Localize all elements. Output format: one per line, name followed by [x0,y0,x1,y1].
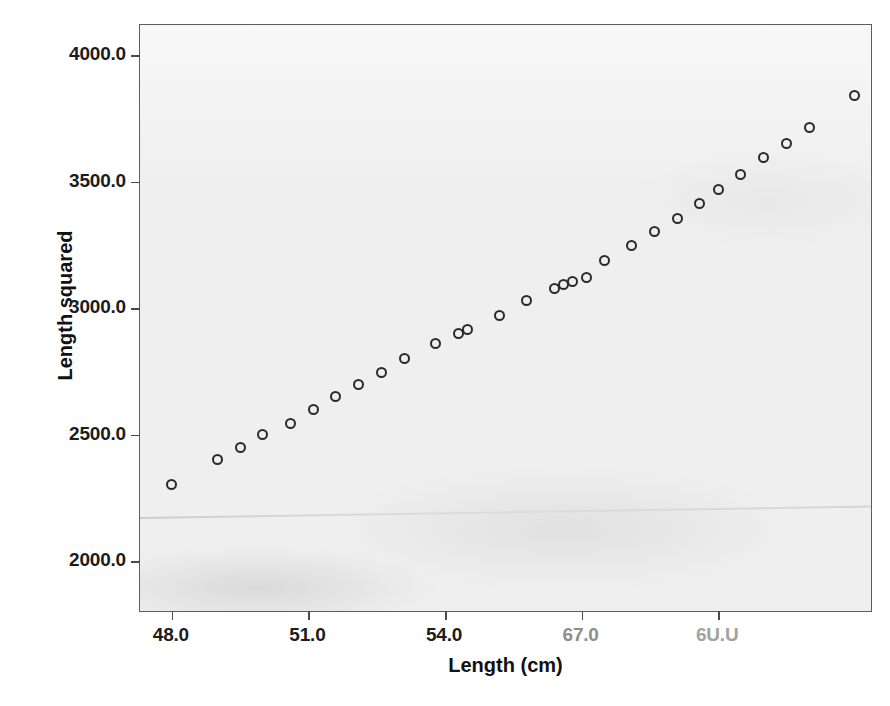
data-point [758,152,769,163]
x-axis-title: Length (cm) [139,654,872,677]
x-tick-label: 6U.U [696,624,739,646]
data-point [376,367,387,378]
y-tick-mark [131,308,140,310]
data-point [694,198,705,209]
y-tick-mark [131,55,140,57]
data-point [649,226,660,237]
y-tick-label: 4000.0 [69,43,126,65]
data-point [330,391,341,402]
x-tick-label: 48.0 [153,624,189,646]
data-point [257,429,268,440]
y-axis-tick-labels: 2000.02500.03000.03500.04000.0 [0,24,126,612]
data-point [285,418,296,429]
data-point [713,184,724,195]
data-point [567,276,578,287]
data-point [430,338,441,349]
scatter-plot-figure: Length squared 2000.02500.03000.03500.04… [0,0,890,706]
data-point [353,379,364,390]
y-tick-label: 2000.0 [69,549,126,571]
data-point [781,138,792,149]
x-tick-mark [172,611,174,620]
data-point [672,213,683,224]
x-tick-label: 67.0 [563,624,599,646]
x-tick-mark [308,611,310,620]
data-point [494,310,505,321]
data-point [212,454,223,465]
y-tick-mark [131,182,140,184]
y-tick-mark [131,561,140,563]
x-tick-mark [718,611,720,620]
panel-texture [140,25,871,611]
y-tick-mark [131,435,140,437]
data-point [599,255,610,266]
x-tick-label: 51.0 [289,624,325,646]
y-tick-label: 3500.0 [69,170,126,192]
data-point [308,404,319,415]
plot-area [139,24,872,612]
y-tick-label: 2500.0 [69,423,126,445]
panel-smudge-line [140,506,871,519]
data-point [166,479,177,490]
data-point [521,295,532,306]
data-point [626,240,637,251]
data-point [235,442,246,453]
x-tick-label: 54.0 [426,624,462,646]
data-point [581,272,592,283]
data-point [804,122,815,133]
x-tick-mark [445,611,447,620]
data-point [399,353,410,364]
x-tick-mark [582,611,584,620]
data-point [462,324,473,335]
x-axis-tick-labels: 48.051.054.067.06U.U [139,624,872,650]
y-tick-label: 3000.0 [69,296,126,318]
data-point [849,90,860,101]
data-point [735,169,746,180]
